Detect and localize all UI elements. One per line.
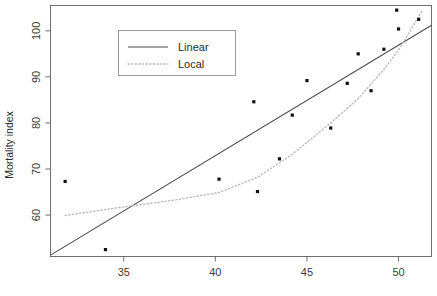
x-tick-label: 45	[301, 266, 313, 278]
data-point	[382, 48, 385, 51]
y-axis-title: Mortality index	[3, 110, 15, 178]
legend-label-local: Local	[178, 58, 204, 70]
data-point	[256, 190, 259, 193]
data-point	[305, 79, 308, 82]
data-point	[252, 100, 255, 103]
data-point	[346, 82, 349, 85]
data-point	[369, 89, 372, 92]
data-point	[278, 157, 281, 160]
y-tick-label: 70	[30, 163, 42, 175]
data-point	[357, 52, 360, 55]
x-tick-label: 50	[392, 266, 404, 278]
scatter-plot: 60708090100 35404550 Mortality index Lin…	[0, 0, 437, 296]
legend-box	[119, 31, 236, 76]
x-tick-label: 35	[118, 266, 130, 278]
x-tick-label: 40	[209, 266, 221, 278]
y-tick-label: 80	[30, 117, 42, 129]
data-point	[417, 18, 420, 21]
data-point	[104, 248, 107, 251]
data-point	[329, 126, 332, 129]
y-tick-label: 60	[30, 209, 42, 221]
legend: Linear Local	[119, 31, 236, 76]
data-point	[217, 178, 220, 181]
chart-container: 60708090100 35404550 Mortality index Lin…	[0, 0, 437, 296]
data-point	[397, 27, 400, 30]
data-point	[291, 114, 294, 117]
y-tick-label: 90	[30, 71, 42, 83]
data-point	[64, 180, 67, 183]
y-tick-label: 100	[30, 22, 42, 40]
legend-label-linear: Linear	[178, 41, 209, 53]
data-point	[395, 9, 398, 12]
